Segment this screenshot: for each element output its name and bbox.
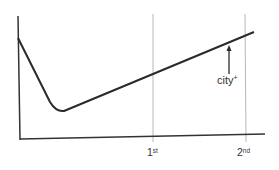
- y-axis: [18, 16, 20, 140]
- diagram-canvas: city+ 1st 2nd: [0, 0, 279, 170]
- marker-label-1st: 1st: [147, 146, 158, 158]
- annotation-label: city+: [217, 74, 238, 86]
- marker-line-2nd: [245, 14, 246, 142]
- x-axis: [20, 134, 265, 139]
- arrow-head-icon: [227, 45, 232, 51]
- marker2-superscript: nd: [243, 147, 251, 154]
- marker1-superscript: st: [153, 147, 158, 154]
- curve-line: [18, 32, 254, 111]
- marker-label-2nd: 2nd: [237, 146, 250, 158]
- annotation-superscript: +: [234, 74, 238, 81]
- annotation-text: city: [217, 74, 234, 86]
